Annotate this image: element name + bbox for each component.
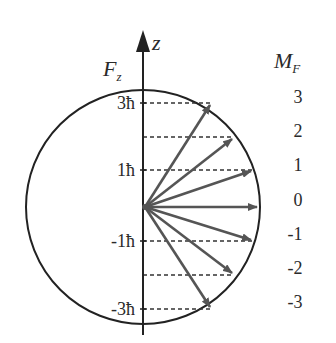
mf-value-neg2: -2 bbox=[280, 259, 310, 277]
angular-momentum-diagram: z Fz 3ħ 1ħ -1ħ -3ħ MF 3 2 1 0 -1 -2 -3 bbox=[0, 0, 336, 343]
mf-value-3: 3 bbox=[283, 88, 313, 106]
tick-label-1hbar: 1ħ bbox=[85, 161, 135, 179]
fz-main: F bbox=[103, 56, 116, 81]
vector-m-2 bbox=[145, 207, 232, 273]
f-vectors bbox=[145, 105, 257, 307]
z-axis-label: z bbox=[152, 32, 161, 54]
fz-sub: z bbox=[116, 69, 121, 84]
mf-main: M bbox=[274, 48, 292, 73]
vector-m3 bbox=[145, 105, 210, 207]
tick-label-3hbar: 3ħ bbox=[85, 94, 135, 112]
mf-header: MF bbox=[274, 50, 300, 72]
tick-label-neg1hbar: -1ħ bbox=[85, 232, 135, 250]
origin-dot bbox=[142, 204, 148, 210]
tick-label-neg3hbar: -3ħ bbox=[85, 300, 135, 318]
vector-m-1 bbox=[145, 207, 251, 240]
mf-value-neg1: -1 bbox=[280, 225, 310, 243]
vector-m2 bbox=[145, 139, 232, 207]
mf-value-neg3: -3 bbox=[280, 293, 310, 311]
mf-sub: F bbox=[292, 61, 300, 76]
fz-label: Fz bbox=[103, 58, 122, 80]
vector-m-3 bbox=[145, 207, 210, 307]
mf-value-2: 2 bbox=[283, 122, 313, 140]
mf-value-0: 0 bbox=[283, 191, 313, 209]
vector-m1 bbox=[145, 171, 251, 207]
mf-value-1: 1 bbox=[283, 156, 313, 174]
z-axis-arrowhead-icon bbox=[136, 30, 150, 52]
